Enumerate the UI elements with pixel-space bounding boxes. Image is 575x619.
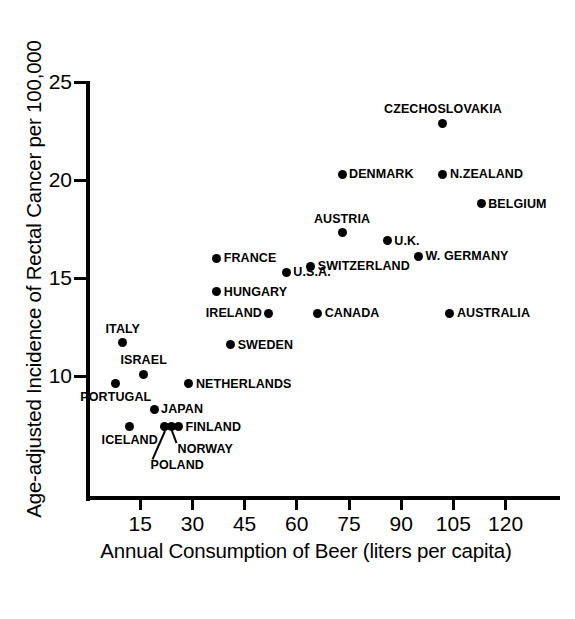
data-point-label: SWITZERLAND <box>318 260 410 273</box>
scatter-plot-figure: Age-adjusted Incidence of Rectal Cancer … <box>0 0 575 619</box>
data-point[interactable] <box>264 309 273 318</box>
data-point-label: ITALY <box>106 323 141 336</box>
y-tick-mark <box>74 375 87 378</box>
y-axis-line <box>86 81 90 501</box>
x-tick-label: 105 <box>423 513 483 535</box>
data-point-label: U.S.A. <box>293 266 330 279</box>
data-point[interactable] <box>338 228 347 237</box>
data-point-label: HUNGARY <box>224 285 287 298</box>
data-point[interactable] <box>383 236 392 245</box>
data-point-label: CANADA <box>325 307 380 320</box>
y-tick-label: 25 <box>34 71 72 92</box>
data-point-label: POLAND <box>151 458 204 471</box>
data-point[interactable] <box>477 199 486 208</box>
data-point-label: BELGIUM <box>488 197 546 210</box>
data-point-label: DENMARK <box>349 168 414 181</box>
label-leader-line <box>171 431 177 444</box>
x-tick-label: 60 <box>267 513 327 535</box>
data-point-label: ISRAEL <box>120 354 166 367</box>
data-point[interactable] <box>150 405 159 414</box>
x-axis-line <box>86 496 560 500</box>
x-tick-mark <box>243 497 246 510</box>
data-point-label: W. GERMANY <box>426 250 509 263</box>
x-tick-mark <box>191 497 194 510</box>
data-point-label: FRANCE <box>224 252 277 265</box>
y-tick-label: 10 <box>34 365 72 386</box>
data-point-label: PORTUGAL <box>80 391 151 404</box>
data-point-label: CZECHOSLOVAKIA <box>384 103 502 116</box>
y-tick-label: 15 <box>34 267 72 288</box>
data-point[interactable] <box>338 170 347 179</box>
data-point-label: FINLAND <box>185 420 241 433</box>
data-point[interactable] <box>125 422 134 431</box>
x-tick-mark <box>295 497 298 510</box>
x-tick-mark <box>139 497 142 510</box>
data-point[interactable] <box>438 119 447 128</box>
y-tick-mark <box>74 277 87 280</box>
data-point[interactable] <box>226 340 235 349</box>
data-point-label: NETHERLANDS <box>196 377 292 390</box>
x-tick-mark <box>400 497 403 510</box>
data-point-label: JAPAN <box>161 403 203 416</box>
y-tick-label: 20 <box>34 169 72 190</box>
x-tick-label: 15 <box>110 513 170 535</box>
data-point[interactable] <box>313 309 322 318</box>
x-tick-mark <box>452 497 455 510</box>
x-tick-label: 45 <box>215 513 275 535</box>
data-point-label: U.K. <box>394 234 419 247</box>
x-tick-mark <box>504 497 507 510</box>
y-tick-mark <box>74 179 87 182</box>
x-tick-mark <box>348 497 351 510</box>
x-axis-title: Annual Consumption of Beer (liters per c… <box>46 539 566 563</box>
data-point-label: IRELAND <box>206 307 262 320</box>
data-point-label: AUSTRIA <box>314 213 370 226</box>
data-point[interactable] <box>184 379 193 388</box>
y-tick-mark <box>74 81 87 84</box>
data-point-label: N.ZEALAND <box>450 168 523 181</box>
data-point[interactable] <box>111 379 120 388</box>
data-point[interactable] <box>118 338 127 347</box>
data-point-label: NORWAY <box>178 442 233 455</box>
data-point-label: SWEDEN <box>238 338 293 351</box>
data-point[interactable] <box>212 254 221 263</box>
data-point[interactable] <box>282 268 291 277</box>
data-point-label: ICELAND <box>102 434 158 447</box>
data-point-label: AUSTRALIA <box>457 307 530 320</box>
x-tick-label: 120 <box>476 513 536 535</box>
data-point[interactable] <box>414 252 423 261</box>
data-point[interactable] <box>212 287 221 296</box>
data-point[interactable] <box>445 309 454 318</box>
data-point[interactable] <box>438 170 447 179</box>
x-tick-label: 90 <box>371 513 431 535</box>
x-tick-label: 30 <box>162 513 222 535</box>
data-point[interactable] <box>139 370 148 379</box>
x-tick-label: 75 <box>319 513 379 535</box>
